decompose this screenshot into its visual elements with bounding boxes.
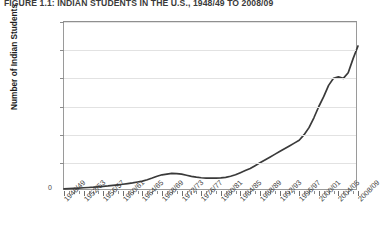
y-axis-tick-mark xyxy=(60,22,64,23)
gridline xyxy=(64,22,356,23)
y-axis-tick-mark xyxy=(60,78,64,79)
gridline xyxy=(64,163,356,164)
x-axis-tick-label: 2008/09 xyxy=(356,178,381,203)
y-axis-zero-label: 0 xyxy=(48,184,52,191)
gridline xyxy=(64,107,356,108)
figure-title: Figure 1.1: Indian Students in the U.S.,… xyxy=(4,0,368,8)
y-axis-title: Number of Indian Students xyxy=(9,0,19,127)
y-axis-tick-mark xyxy=(60,50,64,51)
y-axis-tick-mark xyxy=(60,135,64,136)
gridline xyxy=(64,135,356,136)
gridline xyxy=(64,78,356,79)
y-axis-tick-mark xyxy=(60,107,64,108)
y-axis-tick-mark xyxy=(60,163,64,164)
plot-area: 20,0004,00060,00080,000100,000120,000 xyxy=(63,21,357,190)
gridline xyxy=(64,50,356,51)
